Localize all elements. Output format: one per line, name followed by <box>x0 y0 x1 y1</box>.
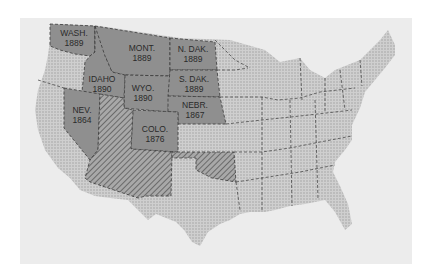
us-statehood-map: WASH.1889 MONT.1889 N. DAK.1889 IDAHO189… <box>0 0 429 280</box>
label-montana: MONT.1889 <box>129 43 155 63</box>
label-wyoming: WYO.1890 <box>132 83 155 103</box>
label-nebraska: NEBR.1867 <box>182 100 208 120</box>
label-nevada: NEV.1864 <box>72 105 91 125</box>
label-colorado: COLO.1876 <box>142 124 168 144</box>
